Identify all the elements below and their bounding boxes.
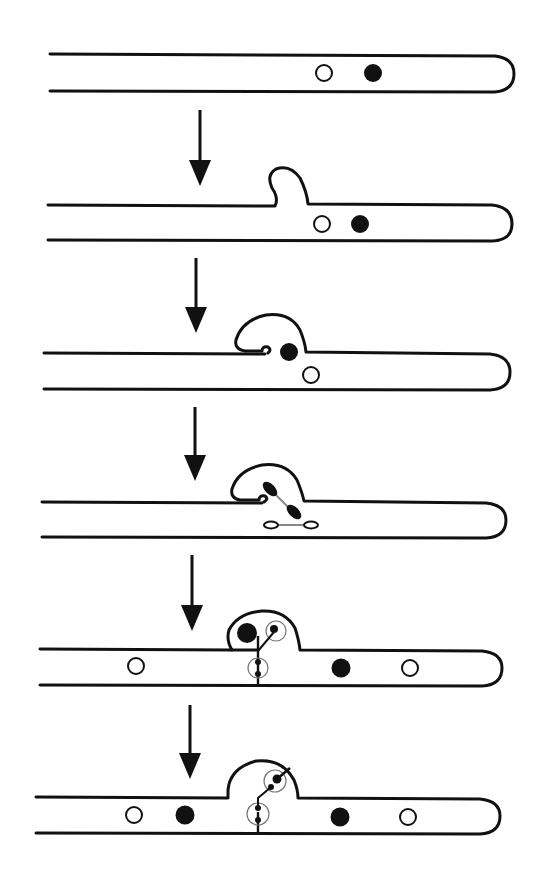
septal-pore-dot <box>255 671 261 677</box>
hypha-wall <box>50 54 514 92</box>
hypha-wall <box>36 761 500 834</box>
stage-6-hypha <box>36 761 500 834</box>
clamp-connection-diagram <box>0 0 549 886</box>
nucleus-open <box>303 367 319 383</box>
stage-3-hypha <box>44 315 510 390</box>
nucleus-filled <box>237 623 257 643</box>
dividing-nucleus-in-hypha <box>264 522 318 529</box>
hypha-wall-top-left <box>44 353 265 354</box>
nucleus-filled <box>280 343 298 361</box>
nucleus-open <box>126 807 142 823</box>
hypha-wall-top <box>48 168 512 241</box>
arrow-down-icon <box>189 110 211 186</box>
nucleus-filled <box>176 806 195 825</box>
stage-2-hypha <box>48 168 512 241</box>
nucleus-open <box>316 65 332 81</box>
nucleus-filled <box>332 659 351 678</box>
septal-pore-dot <box>270 625 278 633</box>
nucleus-filled <box>351 215 369 233</box>
septal-pore-dot <box>255 817 261 823</box>
arrow-down-icon <box>181 555 203 631</box>
stage-4-hypha <box>42 465 506 538</box>
nucleus-open <box>402 660 418 676</box>
stage-5-hypha <box>40 611 502 686</box>
septal-pore-dot <box>255 659 261 665</box>
stage-1-hypha <box>50 54 514 92</box>
nucleus-filled <box>331 808 350 827</box>
nucleus-filled <box>364 64 382 82</box>
arrow-down-icon <box>185 258 207 333</box>
arrow-down-icon <box>179 705 201 779</box>
hypha-wall-top-left <box>42 502 262 503</box>
nucleus-open <box>400 809 416 825</box>
arrow-down-icon <box>184 407 206 481</box>
nucleus-open <box>128 658 144 674</box>
nucleus-open <box>314 216 330 232</box>
